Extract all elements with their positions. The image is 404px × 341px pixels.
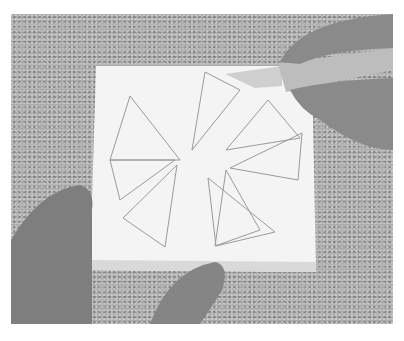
- foam-block: [90, 66, 316, 272]
- photo-scene: [11, 14, 393, 324]
- bottom-thumb: [150, 262, 225, 324]
- left-hand: [11, 185, 93, 324]
- photo: [11, 14, 393, 324]
